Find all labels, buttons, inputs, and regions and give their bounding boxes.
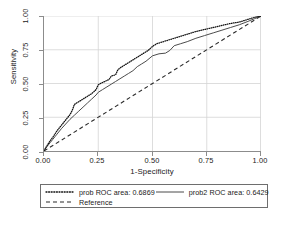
legend-entry-prob2: prob2 ROC area: 0.6429 bbox=[155, 188, 269, 197]
legend-row-2: Reference bbox=[45, 197, 263, 207]
x-tick-label-0.50: 0.50 bbox=[135, 156, 169, 165]
y-tick-label-0.75: 0.75 bbox=[22, 37, 30, 63]
x-tick-label-0.00: 0.00 bbox=[26, 156, 60, 165]
figure-caption bbox=[0, 224, 306, 233]
legend-entry-reference: Reference bbox=[45, 198, 181, 207]
legend-label-prob2: prob2 ROC area: 0.6429 bbox=[189, 188, 269, 197]
x-tick-label-0.25: 0.25 bbox=[80, 156, 114, 165]
chart-legend: prob ROC area: 0.6869 prob2 ROC area: 0.… bbox=[40, 184, 268, 208]
y-tick-label-1.00: 1.00 bbox=[22, 3, 30, 29]
plot-area bbox=[43, 16, 261, 152]
x-axis-title: 1-Specificity bbox=[43, 167, 261, 176]
y-axis-title: Sensitivity bbox=[9, 32, 18, 102]
legend-entry-prob: prob ROC area: 0.6869 bbox=[45, 188, 155, 197]
solid-line-sample-icon bbox=[155, 188, 185, 196]
roc-curve-figure: 1.00 0.75 0.50 0.25 0.00 Sensitivity bbox=[0, 0, 306, 233]
dotted-line-sample-icon bbox=[45, 188, 75, 196]
x-tick-label-0.75: 0.75 bbox=[189, 156, 223, 165]
legend-label-reference: Reference bbox=[79, 198, 113, 207]
y-tick-label-0.50: 0.50 bbox=[22, 71, 30, 97]
dashed-line-sample-icon bbox=[45, 198, 75, 206]
legend-label-prob: prob ROC area: 0.6869 bbox=[79, 188, 155, 197]
plot-canvas bbox=[44, 16, 261, 151]
x-tick-label-1.00: 1.00 bbox=[243, 156, 277, 165]
legend-row-1: prob ROC area: 0.6869 prob2 ROC area: 0.… bbox=[45, 187, 263, 197]
y-tick-label-0.25: 0.25 bbox=[22, 105, 30, 131]
